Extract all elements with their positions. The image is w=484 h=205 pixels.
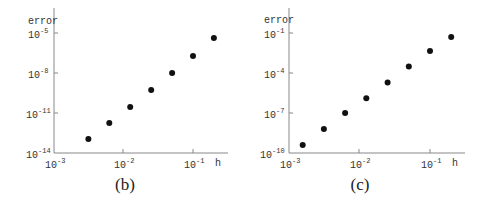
- data-point: [106, 120, 112, 126]
- data-point: [342, 110, 348, 116]
- data-point: [427, 48, 433, 54]
- chart-panel-c: error 10-1 10-4 10-7 10-10 10-3 10-2 10-…: [260, 8, 465, 194]
- x-tick-label: 10-3: [280, 157, 300, 171]
- data-point: [448, 34, 454, 40]
- y-tick-label: 10-1: [264, 27, 284, 41]
- data-points: [300, 34, 455, 148]
- data-point: [148, 87, 154, 93]
- panel-caption: (c): [351, 175, 370, 194]
- x-axis-label: h: [215, 158, 221, 169]
- y-tick-label: 10-14: [26, 147, 51, 161]
- axis-ticks: [54, 33, 193, 153]
- y-tick-label: 10-11: [26, 107, 51, 121]
- data-point: [190, 53, 196, 59]
- y-tick-label: 10-7: [264, 107, 284, 121]
- y-axis-label: error: [264, 15, 294, 26]
- data-point: [85, 136, 91, 142]
- panel-caption: (b): [115, 175, 135, 194]
- y-tick-label: 10-10: [260, 147, 285, 161]
- y-tick-label: 10-5: [28, 27, 48, 41]
- axis-ticks: [289, 33, 430, 153]
- x-tick-label: 10-2: [350, 157, 370, 171]
- data-point: [406, 63, 412, 69]
- y-tick-label: 10-4: [264, 67, 284, 81]
- data-point: [169, 70, 175, 76]
- x-axis-label: h: [452, 158, 458, 169]
- y-axis-label: error: [28, 16, 58, 27]
- data-point: [300, 142, 306, 148]
- data-points: [85, 35, 217, 142]
- y-tick-label: 10-8: [28, 67, 48, 81]
- x-tick-label: 10-2: [114, 157, 134, 171]
- chart-panel-b: error 10-5 10-8 10-11 10-14 10-3 10-2 10…: [26, 8, 228, 194]
- x-tick-label: 10-1: [184, 157, 204, 171]
- data-point: [211, 35, 217, 41]
- data-point: [363, 95, 369, 101]
- data-point: [385, 79, 391, 85]
- figure: error 10-5 10-8 10-11 10-14 10-3 10-2 10…: [0, 0, 484, 205]
- data-point: [321, 126, 327, 132]
- x-tick-label: 10-1: [421, 157, 441, 171]
- data-point: [127, 104, 133, 110]
- x-tick-label: 10-3: [45, 157, 65, 171]
